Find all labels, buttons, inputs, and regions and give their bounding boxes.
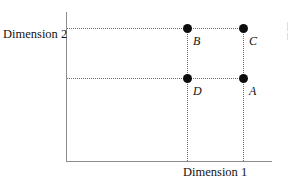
scan-artifact-bottom [287,33,288,40]
data-point-b [183,24,192,33]
data-point-d [183,74,192,83]
data-point-c [239,24,248,33]
x-axis-line [66,161,272,162]
data-point-a [239,74,248,83]
data-point-label-a: A [249,85,256,97]
dimension-scatter-figure: B C D A Dimension 2 Dimension 1 [0,0,294,182]
data-point-label-c: C [249,35,257,47]
y-axis-title: Dimension 2 [3,27,67,41]
gridline-horizontal-upper [67,28,244,29]
gridline-vertical-left [187,28,188,161]
data-point-label-d: D [193,85,202,97]
gridline-vertical-right [243,28,244,161]
gridline-horizontal-lower [67,78,244,79]
data-point-label-b: B [193,35,200,47]
scan-artifact-top [287,22,288,31]
x-axis-title: Dimension 1 [183,165,247,179]
